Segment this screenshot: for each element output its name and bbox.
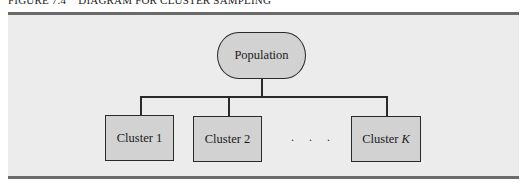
figure-title: DIAGRAM FOR CLUSTER SAMPLING bbox=[78, 0, 271, 6]
population-label: Population bbox=[234, 48, 288, 63]
population-node: Population bbox=[217, 32, 306, 79]
cluster-k-node: ClusterK bbox=[351, 116, 421, 162]
cluster-2-label: Cluster 2 bbox=[205, 132, 250, 147]
root-connector bbox=[261, 79, 263, 96]
cluster-2-node: Cluster 2 bbox=[193, 116, 262, 162]
cluster-k-label-var: K bbox=[401, 132, 409, 147]
figure-number: FIGURE 7.4 bbox=[8, 0, 66, 6]
top-rule bbox=[8, 12, 519, 15]
horizontal-connector bbox=[140, 96, 387, 98]
cluster-1-node: Cluster 1 bbox=[105, 115, 174, 161]
cluster-1-label: Cluster 1 bbox=[117, 131, 162, 146]
cluster-2-connector bbox=[228, 96, 230, 116]
cluster-k-label-prefix: Cluster bbox=[362, 132, 398, 147]
figure-caption: FIGURE 7.4DIAGRAM FOR CLUSTER SAMPLING bbox=[8, 0, 271, 6]
ellipsis: . . . bbox=[291, 130, 336, 145]
bottom-rule bbox=[8, 176, 519, 179]
cluster-k-connector bbox=[386, 96, 388, 116]
cluster-1-connector bbox=[140, 96, 142, 115]
